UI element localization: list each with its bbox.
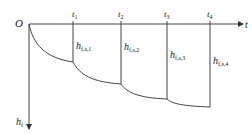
t4-label: t4: [207, 9, 213, 20]
x-axis-label: t: [245, 19, 248, 30]
y-axis-label: hf: [16, 116, 23, 128]
h4-label: hf,s,4: [213, 55, 228, 67]
h2-label: hf,s,2: [124, 41, 139, 53]
settlement-curve-4: [167, 99, 210, 107]
t3-label: t3: [164, 9, 170, 20]
settlement-diagram: O t hf t1 t2 t3 t4 hf,s,1 hf,s,2 hf,s,3 …: [0, 0, 252, 134]
origin-label: O: [15, 17, 23, 29]
h3-label: hf,s,3: [170, 49, 185, 61]
h1-label: hf,s,1: [76, 40, 91, 52]
settlement-curve-1: [29, 24, 73, 62]
t2-label: t2: [118, 9, 124, 20]
settlement-curve-3: [121, 84, 167, 99]
t1-label: t1: [72, 9, 78, 20]
settlement-curve-2: [73, 62, 121, 84]
